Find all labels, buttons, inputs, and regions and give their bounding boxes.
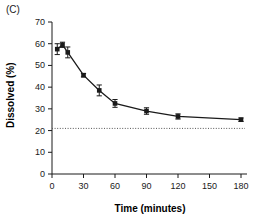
data-point-marker (239, 117, 244, 122)
x-tick-label: 150 (202, 181, 217, 191)
line-chart: 010203040506070 0306090120150180 Dissolv… (0, 0, 262, 220)
x-tick-label: 180 (233, 181, 248, 191)
data-point-marker (113, 101, 118, 106)
y-tick-label: 30 (35, 104, 45, 114)
y-axis-title: Dissolved (%) (5, 62, 16, 128)
data-series (55, 42, 244, 122)
data-point-marker (60, 43, 65, 48)
y-tick-label: 40 (35, 82, 45, 92)
data-point-marker (176, 114, 181, 119)
data-point-marker (97, 88, 102, 93)
axes (52, 22, 247, 174)
series-line (57, 45, 241, 120)
x-tick-label: 30 (78, 181, 88, 191)
x-axis-ticks: 0306090120150180 (49, 174, 248, 191)
data-point-marker (144, 109, 149, 114)
x-tick-label: 60 (110, 181, 120, 191)
y-tick-label: 20 (35, 126, 45, 136)
figure-panel: (C) 010203040506070 0306090120150180 Dis… (0, 0, 262, 220)
y-tick-label: 70 (35, 17, 45, 27)
x-tick-label: 90 (141, 181, 151, 191)
y-tick-label: 60 (35, 39, 45, 49)
x-axis-title: Time (minutes) (115, 203, 186, 214)
y-tick-label: 0 (40, 169, 45, 179)
data-point-marker (55, 47, 60, 52)
y-tick-label: 10 (35, 147, 45, 157)
x-tick-label: 0 (49, 181, 54, 191)
y-tick-label: 50 (35, 60, 45, 70)
y-axis-ticks: 010203040506070 (35, 17, 52, 179)
data-point-marker (65, 50, 70, 55)
x-tick-label: 120 (170, 181, 185, 191)
data-point-marker (81, 73, 86, 78)
